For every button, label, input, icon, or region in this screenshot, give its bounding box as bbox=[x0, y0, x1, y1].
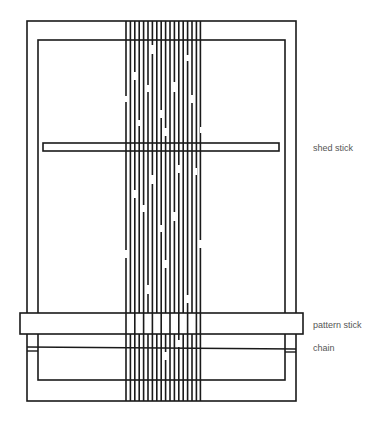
pattern-stick-label: pattern stick bbox=[313, 321, 362, 330]
shed-stick-label: shed stick bbox=[313, 144, 353, 153]
chain-label: chain bbox=[313, 344, 335, 353]
warp-threads bbox=[126, 21, 200, 401]
loom-diagram bbox=[0, 0, 387, 429]
